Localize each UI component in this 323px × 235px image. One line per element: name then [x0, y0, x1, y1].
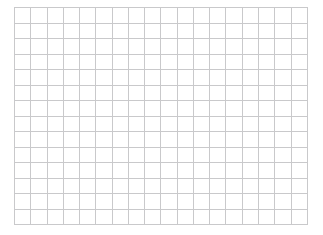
table-cell[interactable] [291, 23, 307, 39]
table-cell[interactable] [112, 70, 128, 86]
table-cell[interactable] [161, 85, 177, 101]
table-cell[interactable] [63, 85, 79, 101]
table-cell[interactable] [242, 209, 258, 225]
table-cell[interactable] [193, 178, 209, 194]
table-cell[interactable] [15, 54, 31, 70]
table-cell[interactable] [291, 178, 307, 194]
table-cell[interactable] [258, 70, 274, 86]
table-cell[interactable] [242, 54, 258, 70]
table-cell[interactable] [193, 101, 209, 117]
table-cell[interactable] [242, 23, 258, 39]
table-cell[interactable] [80, 209, 96, 225]
table-cell[interactable] [210, 163, 226, 179]
table-cell[interactable] [177, 209, 193, 225]
table-cell[interactable] [145, 147, 161, 163]
table-cell[interactable] [63, 70, 79, 86]
table-cell[interactable] [242, 101, 258, 117]
table-cell[interactable] [177, 163, 193, 179]
table-cell[interactable] [47, 209, 63, 225]
table-cell[interactable] [145, 178, 161, 194]
table-cell[interactable] [112, 132, 128, 148]
table-cell[interactable] [31, 39, 47, 55]
table-cell[interactable] [128, 194, 144, 210]
table-cell[interactable] [15, 209, 31, 225]
table-cell[interactable] [258, 147, 274, 163]
table-cell[interactable] [63, 194, 79, 210]
table-cell[interactable] [193, 85, 209, 101]
table-cell[interactable] [226, 132, 242, 148]
table-cell[interactable] [226, 101, 242, 117]
table-cell[interactable] [63, 163, 79, 179]
table-cell[interactable] [275, 70, 291, 86]
table-cell[interactable] [31, 54, 47, 70]
table-cell[interactable] [275, 209, 291, 225]
table-cell[interactable] [145, 70, 161, 86]
table-cell[interactable] [291, 194, 307, 210]
table-cell[interactable] [96, 39, 112, 55]
table-cell[interactable] [291, 54, 307, 70]
table-cell[interactable] [291, 70, 307, 86]
table-cell[interactable] [47, 85, 63, 101]
table-cell[interactable] [47, 8, 63, 24]
table-cell[interactable] [275, 39, 291, 55]
table-cell[interactable] [63, 147, 79, 163]
table-cell[interactable] [47, 70, 63, 86]
table-cell[interactable] [80, 39, 96, 55]
table-cell[interactable] [258, 116, 274, 132]
table-cell[interactable] [112, 23, 128, 39]
table-cell[interactable] [193, 54, 209, 70]
table-cell[interactable] [242, 194, 258, 210]
table-cell[interactable] [145, 132, 161, 148]
table-cell[interactable] [63, 8, 79, 24]
table-cell[interactable] [291, 147, 307, 163]
table-cell[interactable] [31, 23, 47, 39]
table-cell[interactable] [177, 132, 193, 148]
table-cell[interactable] [63, 23, 79, 39]
table-cell[interactable] [193, 147, 209, 163]
table-cell[interactable] [177, 23, 193, 39]
table-cell[interactable] [193, 8, 209, 24]
table-cell[interactable] [15, 147, 31, 163]
table-cell[interactable] [226, 8, 242, 24]
table-cell[interactable] [31, 8, 47, 24]
table-cell[interactable] [31, 209, 47, 225]
table-cell[interactable] [258, 163, 274, 179]
table-cell[interactable] [47, 23, 63, 39]
table-cell[interactable] [226, 194, 242, 210]
table-cell[interactable] [161, 101, 177, 117]
table-cell[interactable] [145, 54, 161, 70]
table-cell[interactable] [15, 39, 31, 55]
table-cell[interactable] [145, 194, 161, 210]
table-cell[interactable] [63, 39, 79, 55]
table-cell[interactable] [31, 163, 47, 179]
table-cell[interactable] [193, 39, 209, 55]
table-cell[interactable] [47, 163, 63, 179]
table-cell[interactable] [80, 85, 96, 101]
table-cell[interactable] [258, 8, 274, 24]
table-cell[interactable] [177, 178, 193, 194]
table-cell[interactable] [177, 194, 193, 210]
table-cell[interactable] [291, 8, 307, 24]
table-cell[interactable] [96, 194, 112, 210]
table-cell[interactable] [31, 132, 47, 148]
table-cell[interactable] [275, 54, 291, 70]
table-cell[interactable] [31, 147, 47, 163]
table-cell[interactable] [291, 101, 307, 117]
table-cell[interactable] [80, 178, 96, 194]
table-cell[interactable] [242, 39, 258, 55]
table-cell[interactable] [128, 23, 144, 39]
empty-table-grid[interactable] [14, 7, 308, 225]
table-cell[interactable] [161, 178, 177, 194]
table-cell[interactable] [145, 39, 161, 55]
table-cell[interactable] [258, 85, 274, 101]
table-cell[interactable] [128, 39, 144, 55]
table-cell[interactable] [96, 147, 112, 163]
table-cell[interactable] [47, 178, 63, 194]
table-cell[interactable] [193, 70, 209, 86]
table-cell[interactable] [242, 8, 258, 24]
table-cell[interactable] [291, 39, 307, 55]
table-cell[interactable] [112, 54, 128, 70]
table-cell[interactable] [128, 163, 144, 179]
table-cell[interactable] [47, 194, 63, 210]
table-cell[interactable] [128, 116, 144, 132]
